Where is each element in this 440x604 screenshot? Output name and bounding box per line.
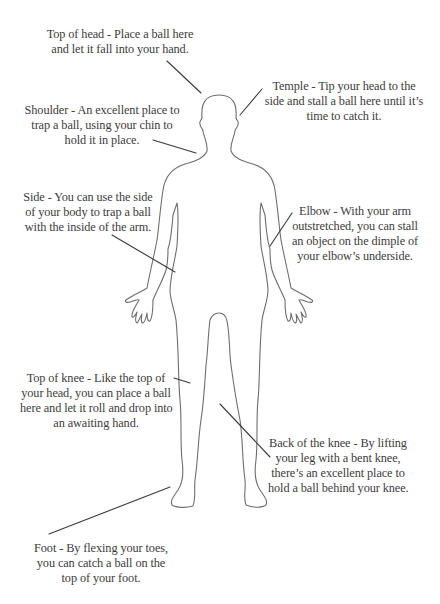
callout-line: here and let it roll and drop into	[20, 401, 172, 416]
callout-elbow: Elbow - With your arm outstretched, you …	[288, 204, 422, 264]
callout-line: outstretched, you can stall	[288, 219, 422, 234]
callout-line: an object on the dimple of	[288, 234, 422, 249]
callout-line: top of your foot.	[28, 571, 174, 586]
callout-temple: Temple - Tip your head to the side and s…	[256, 79, 432, 124]
callout-line: Foot - By flexing your toes,	[28, 541, 174, 556]
callout-line: hold it in place.	[22, 133, 182, 148]
callout-line: hold a ball behind your knee.	[268, 481, 408, 496]
callout-line: of your body to trap a ball	[22, 205, 154, 220]
callout-line: your leg with a bent knee,	[268, 451, 408, 466]
callout-line: Top of head - Place a ball here	[40, 27, 200, 42]
callout-foot: Foot - By flexing your toes, you can cat…	[28, 541, 174, 586]
callout-line: Top of knee - Like the top of	[20, 371, 172, 386]
leader-back-of-knee	[220, 404, 270, 457]
callout-shoulder: Shoulder - An excellent place to trap a …	[22, 103, 182, 148]
callout-line: trap a ball, using your chin to	[22, 118, 182, 133]
callout-line: time to catch it.	[256, 109, 432, 124]
leader-top-of-knee	[174, 378, 190, 383]
callout-line: with the inside of the arm.	[22, 220, 154, 235]
callout-top-of-head: Top of head - Place a ball here and let …	[40, 27, 200, 57]
callout-line: side and stall a ball here until it’s	[256, 94, 432, 109]
leader-top-of-head	[167, 61, 201, 93]
callout-line: Elbow - With your arm	[288, 204, 422, 219]
callout-line: Shoulder - An excellent place to	[22, 103, 182, 118]
callout-line: Temple - Tip your head to the	[256, 79, 432, 94]
callout-line: and let it fall into your hand.	[40, 42, 200, 57]
callout-line: Side - You can use the side	[22, 190, 154, 205]
callout-back-of-knee: Back of the knee - By lifting your leg w…	[268, 436, 408, 496]
callout-line: your elbow’s underside.	[288, 249, 422, 264]
callout-line: you can catch a ball on the	[28, 556, 174, 571]
callout-side: Side - You can use the side of your body…	[22, 190, 154, 235]
body-diagram: Top of head - Place a ball here and let …	[0, 0, 440, 604]
callout-line: Back of the knee - By lifting	[268, 436, 408, 451]
leader-side	[112, 235, 175, 272]
callout-line: an awaiting hand.	[20, 416, 172, 431]
callout-line: there’s an excellent place to	[268, 466, 408, 481]
callout-line: your head, you can place a ball	[20, 386, 172, 401]
leader-foot	[49, 487, 170, 534]
callout-top-of-knee: Top of knee - Like the top of your head,…	[20, 371, 172, 431]
